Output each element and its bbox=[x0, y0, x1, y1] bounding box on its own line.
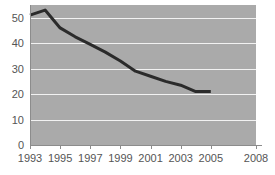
plot-area bbox=[30, 5, 256, 145]
data-line-value bbox=[30, 10, 211, 91]
y-tick-label-20: 20 bbox=[0, 88, 24, 100]
data-series-layer bbox=[30, 5, 256, 145]
y-tick-label-40: 40 bbox=[0, 37, 24, 49]
y-tick-label-0: 0 bbox=[0, 139, 24, 151]
x-tick-2003 bbox=[181, 145, 182, 149]
x-tick-label-2005: 2005 bbox=[199, 152, 223, 164]
x-tick-1999 bbox=[120, 145, 121, 149]
y-tick-label-10: 10 bbox=[0, 114, 24, 126]
x-tick-label-1999: 1999 bbox=[108, 152, 132, 164]
x-tick-2008 bbox=[256, 145, 257, 149]
x-tick-label-1995: 1995 bbox=[48, 152, 72, 164]
x-tick-label-2003: 2003 bbox=[168, 152, 192, 164]
x-tick-label-2001: 2001 bbox=[138, 152, 162, 164]
x-tick-1997 bbox=[90, 145, 91, 149]
x-tick-label-1993: 1993 bbox=[18, 152, 42, 164]
x-tick-2001 bbox=[151, 145, 152, 149]
y-tick-label-50: 50 bbox=[0, 12, 24, 24]
y-axis-line bbox=[30, 5, 31, 146]
x-tick-2005 bbox=[211, 145, 212, 149]
x-tick-label-2008: 2008 bbox=[244, 152, 268, 164]
line-chart: 01020304050 1993199519971999200120032005… bbox=[0, 0, 275, 175]
x-tick-label-1997: 1997 bbox=[78, 152, 102, 164]
x-axis-line bbox=[30, 145, 262, 146]
x-tick-1993 bbox=[30, 145, 31, 149]
y-tick-label-30: 30 bbox=[0, 63, 24, 75]
x-tick-1995 bbox=[60, 145, 61, 149]
